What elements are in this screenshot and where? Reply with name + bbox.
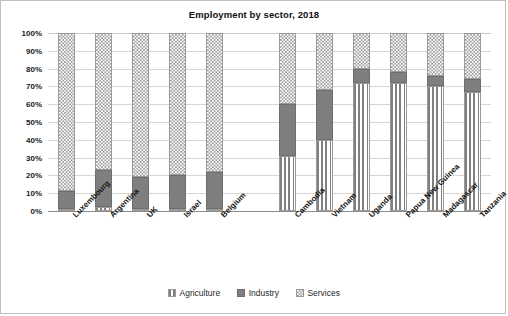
x-axis-label-madagascar: Madagascar [441,213,447,219]
agriculture-swatch [168,289,176,297]
stacked-bar[interactable] [316,33,333,211]
bar-segment-agriculture[interactable] [390,83,407,211]
bar-segment-industry[interactable] [169,175,186,209]
chart-title: Employment by sector, 2018 [1,9,507,20]
x-axis-label-luxembourg: Luxembourg [71,213,77,219]
x-axis-label-argentina: Argentina [108,213,114,219]
stacked-bar[interactable] [206,33,223,211]
gridline-80: 80% [48,69,491,70]
y-axis-tick-label: 30% [26,153,42,162]
bar-segment-industry[interactable] [464,79,481,91]
y-axis-tick-label: 60% [26,100,42,109]
bar-segment-services[interactable] [95,33,112,170]
bar-segment-services[interactable] [353,33,370,69]
x-axis-label-cambodia: Cambodia [293,213,299,219]
x-axis-label-uk: UK [145,213,151,219]
gridline-30: 30% [48,158,491,159]
gridline-50: 50% [48,122,491,123]
bar-segment-services[interactable] [132,33,149,177]
legend-label: Industry [249,288,279,298]
bar-segment-agriculture[interactable] [353,83,370,211]
bar-segment-services[interactable] [169,33,186,175]
bar-segment-services[interactable] [464,33,481,79]
stacked-bar[interactable] [169,33,186,211]
stacked-bar[interactable] [390,33,407,211]
bar-segment-industry[interactable] [316,90,333,140]
x-axis-label-israel: Israel [182,213,188,219]
gridline-60: 60% [48,104,491,105]
y-axis-tick-label: 90% [26,46,42,55]
bar-segment-agriculture[interactable] [279,156,296,211]
x-axis-label-belgium: Belgium [219,213,225,219]
legend-entry-agriculture[interactable]: Agriculture [168,288,220,298]
bar-segment-industry[interactable] [353,69,370,83]
legend-entry-industry[interactable]: Industry [237,288,279,298]
bar-segment-industry[interactable] [390,72,407,83]
industry-swatch [237,289,245,297]
bar-segment-industry[interactable] [427,76,444,87]
y-axis-tick-label: 20% [26,171,42,180]
services-swatch [296,289,304,297]
gridline-100: 100% [48,33,491,34]
y-axis-tick-label: 100% [22,29,42,38]
legend-label: Services [307,288,340,298]
legend-label: Agriculture [180,288,221,298]
legend-entry-services[interactable]: Services [296,288,340,298]
x-axis-label-tanzania: Tanzania [478,213,484,219]
bar-segment-services[interactable] [206,33,223,172]
stacked-bar[interactable] [353,33,370,211]
bar-segment-industry[interactable] [206,172,223,209]
gridline-40: 40% [48,140,491,141]
y-axis-tick-label: 70% [26,82,42,91]
bar-segment-services[interactable] [58,33,75,191]
y-axis-tick-label: 40% [26,135,42,144]
bar-segment-industry[interactable] [58,191,75,209]
x-axis-label-papua-new-guinea: Papua New Guinea [404,213,410,219]
x-axis-label-uganda: Uganda [367,213,373,219]
y-axis-tick-label: 10% [26,189,42,198]
gridline-20: 20% [48,175,491,176]
bar-segment-industry[interactable] [279,104,296,156]
stacked-bar[interactable] [279,33,296,211]
chart-container: Employment by sector, 2018 0%10%20%30%40… [0,0,506,314]
x-axis-label-vietnam: Vietnam [330,213,336,219]
y-axis-tick-label: 80% [26,64,42,73]
x-axis-labels: LuxembourgArgentinaUKIsraelBelgiumCambod… [48,213,491,283]
bar-segment-services[interactable] [390,33,407,72]
bar-segment-services[interactable] [279,33,296,104]
stacked-bar[interactable] [132,33,149,211]
gridline-70: 70% [48,86,491,87]
y-axis-tick-label: 0% [30,207,42,216]
y-axis-tick-label: 50% [26,118,42,127]
stacked-bar[interactable] [58,33,75,211]
gridline-90: 90% [48,51,491,52]
chart-legend: AgricultureIndustryServices [1,288,507,298]
bar-segment-services[interactable] [427,33,444,76]
bar-segment-agriculture[interactable] [316,140,333,211]
plot-area: 0%10%20%30%40%50%60%70%80%90%100% [48,33,491,211]
bar-segment-services[interactable] [316,33,333,90]
